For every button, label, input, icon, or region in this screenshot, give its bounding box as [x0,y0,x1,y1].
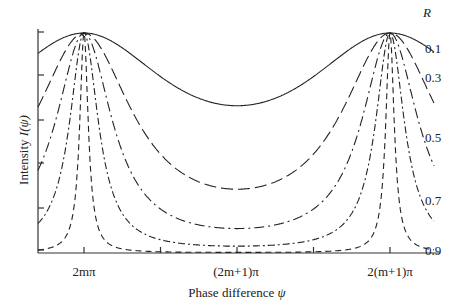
y-axis-label: Intensity I(ψ) [16,115,31,185]
y-ticks [38,32,44,250]
x-tick-label-2m1pi-full: 2(m+1)π [367,264,413,279]
r-label-0-5: 0.5 [425,130,441,145]
r-label-0-7: 0.7 [425,193,442,208]
curve-r-0-7 [38,33,434,246]
axes [38,29,440,253]
x-tick-label-2m1pi: (2m+1)π [213,264,259,279]
r-label-0-9: 0.9 [425,243,441,258]
r-label-0-1: 0.1 [425,41,441,56]
curve-r-0-3 [38,33,434,189]
fabry-perot-intensity-chart: 0.10.30.50.70.9 R 2mπ (2m+1)π 2(m+1)π Ph… [0,0,460,305]
r-label-0-3: 0.3 [425,70,441,85]
curves [38,33,434,252]
curve-r-0-9 [38,33,434,252]
x-axis-label: Phase difference ψ [188,285,286,300]
x-tick-label-2mpi: 2mπ [72,264,96,279]
curve-r-0-1 [38,33,434,106]
legend-title: R [422,5,431,20]
